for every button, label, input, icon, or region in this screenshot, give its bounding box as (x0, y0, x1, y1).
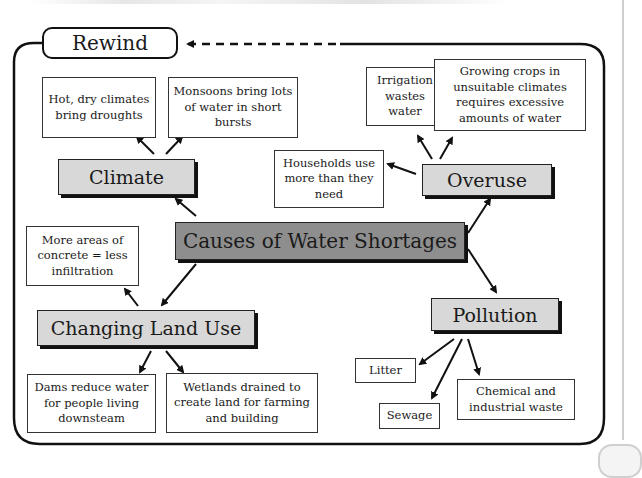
topic-climate: Climate (58, 159, 195, 195)
topic-overuse: Overuse (422, 164, 552, 196)
cause-note-hot-dry: Hot, dry climates bring droughts (42, 77, 156, 138)
central-topic: Causes of Water Shortages (175, 222, 465, 260)
topic-pollution: Pollution (431, 298, 559, 331)
cause-note-dams: Dams reduce water for people living down… (27, 374, 156, 433)
cause-note-litter: Litter (355, 358, 416, 383)
topic-changing-land-use: Changing Land Use (37, 310, 255, 346)
cause-note-households: Households use more than they need (274, 150, 384, 208)
rewind-label: Rewind (42, 27, 178, 59)
cause-note-chemical-waste: Chemical and industrial waste (457, 379, 575, 420)
cause-note-monsoons: Monsoons bring lots of water in short bu… (168, 77, 298, 138)
cause-note-unsuitable-crops: Growing crops in unsuitable climates req… (434, 59, 586, 131)
cause-note-irrigation: Irrigation wastes water (366, 67, 444, 126)
cause-note-sewage: Sewage (379, 403, 440, 429)
cause-note-concrete: More areas of concrete = less infiltrati… (26, 226, 139, 286)
cause-note-wetlands: Wetlands drained to create land for farm… (166, 373, 318, 433)
